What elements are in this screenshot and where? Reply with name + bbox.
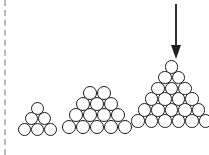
sphere xyxy=(165,60,179,74)
sphere xyxy=(97,86,111,100)
sphere xyxy=(118,120,132,134)
dashed-divider xyxy=(4,0,6,155)
sphere xyxy=(31,102,44,115)
small-sphere-stack xyxy=(18,102,57,136)
arrow-head-icon xyxy=(171,45,181,59)
sphere-stacks-figure xyxy=(0,0,209,155)
medium-sphere-stack xyxy=(62,86,132,134)
sphere xyxy=(83,86,97,100)
large-sphere-stack xyxy=(131,60,209,128)
arrow-shaft xyxy=(175,4,177,48)
